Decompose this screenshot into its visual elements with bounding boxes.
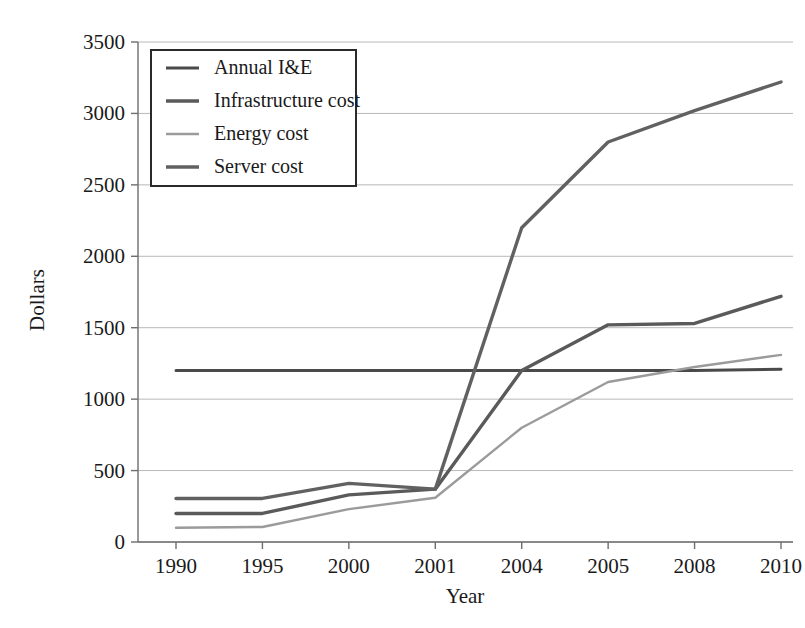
y-tick-label: 0 [115,530,126,554]
y-axis-title: Dollars [25,269,49,331]
x-tick-label: 2001 [414,554,456,578]
line-chart: 0500100015002000250030003500 19901995200… [0,0,805,628]
x-tick-label: 2010 [760,554,802,578]
legend-label-infrastructure-cost: Infrastructure cost [214,89,360,111]
y-tick-label: 2000 [83,244,125,268]
x-tick-label: 2000 [328,554,370,578]
x-axis-tick-labels: 19901995200020012004200520082010 [155,554,802,578]
legend: Annual I&EInfrastructure costEnergy cost… [151,50,360,186]
y-tick-label: 1500 [83,316,125,340]
y-tick-label: 2500 [83,173,125,197]
y-tick-label: 500 [94,459,126,483]
y-tick-label: 3500 [83,30,125,54]
x-tick-label: 1990 [155,554,197,578]
y-tick-label: 3000 [83,101,125,125]
y-tick-label: 1000 [83,387,125,411]
x-tick-label: 2008 [674,554,716,578]
chart-figure: 0500100015002000250030003500 19901995200… [0,0,805,628]
series-line-annual-i-e [176,369,781,370]
x-tick-label: 1995 [241,554,283,578]
x-axis-ticks [176,542,781,549]
x-tick-label: 2005 [587,554,629,578]
x-tick-label: 2004 [501,554,544,578]
legend-label-annual-i-e: Annual I&E [214,56,312,78]
legend-label-server-cost: Server cost [214,155,304,177]
legend-label-energy-cost: Energy cost [214,122,309,145]
y-axis-ticks [131,42,138,542]
y-axis-tick-labels: 0500100015002000250030003500 [83,30,125,554]
x-axis-title: Year [446,584,485,608]
